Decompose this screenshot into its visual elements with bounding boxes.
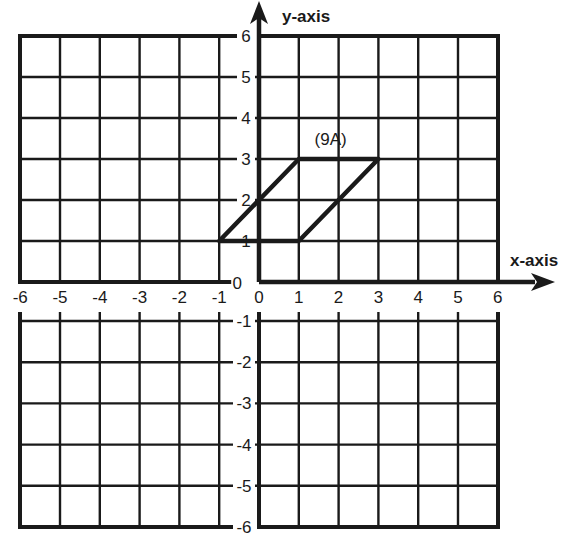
x-tick-label: -3 xyxy=(132,288,147,307)
y-tick-label: 5 xyxy=(241,68,250,87)
x-tick-label: -4 xyxy=(92,288,107,307)
x-tick-label: 2 xyxy=(334,288,343,307)
y-tick-label: 6 xyxy=(241,27,250,46)
y-tick-label: -2 xyxy=(236,353,251,372)
y-axis-title: y-axis xyxy=(282,7,330,26)
x-tick-label: -1 xyxy=(212,288,227,307)
y-tick-label: -6 xyxy=(236,518,251,537)
x-tick-label: -2 xyxy=(172,288,187,307)
y-tick-label: -5 xyxy=(236,477,251,496)
y-tick-label: -4 xyxy=(236,436,251,455)
coordinate-grid: -6-5-4-3-2-101234560654321-1-2-3-4-5-6 x… xyxy=(0,0,581,541)
y-tick-label: 4 xyxy=(241,109,250,128)
x-tick-label: 6 xyxy=(493,288,502,307)
x-tick-label: 0 xyxy=(254,288,263,307)
y-tick-label: -3 xyxy=(236,394,251,413)
x-tick-label: 3 xyxy=(374,288,383,307)
y-tick-label: 3 xyxy=(241,150,250,169)
x-tick-label: -5 xyxy=(52,288,67,307)
axes xyxy=(250,1,555,291)
x-tick-label: -6 xyxy=(13,288,28,307)
x-axis-title: x-axis xyxy=(510,251,558,270)
shape-label: (9A) xyxy=(315,130,347,149)
y-tick-label: 0 xyxy=(232,274,241,293)
x-tick-label: 1 xyxy=(294,288,303,307)
x-tick-label: 4 xyxy=(413,288,422,307)
x-tick-label: 5 xyxy=(453,288,462,307)
y-tick-label: -1 xyxy=(236,312,251,331)
quadrant-3-border xyxy=(20,312,245,527)
